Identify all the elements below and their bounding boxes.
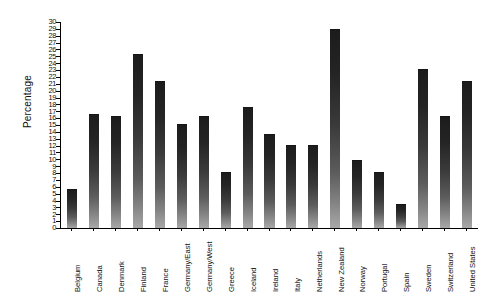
bar xyxy=(286,145,296,228)
y-tick-mark xyxy=(56,111,60,112)
y-tick-mark xyxy=(56,29,60,30)
bar-slot xyxy=(221,22,231,228)
y-tick-mark xyxy=(56,98,60,99)
y-tick-label: 15 xyxy=(40,121,56,128)
bar-slot xyxy=(352,22,362,228)
y-tick-mark xyxy=(56,166,60,167)
bar xyxy=(396,204,406,228)
x-tick-label: Canada xyxy=(96,265,104,292)
bar-chart: Percentage 01234567891011121314151617181… xyxy=(0,0,489,296)
y-tick-label: 6 xyxy=(40,183,56,190)
bar-slot xyxy=(462,22,472,228)
bar xyxy=(67,189,77,228)
y-tick-label: 20 xyxy=(40,87,56,94)
y-tick-label: 12 xyxy=(40,142,56,149)
y-tick-mark xyxy=(56,70,60,71)
x-tick-label: Spain xyxy=(403,273,411,292)
x-tick-label: Belgium xyxy=(74,265,82,292)
bar xyxy=(111,116,121,228)
bar-slot xyxy=(264,22,274,228)
y-tick-label: 7 xyxy=(40,176,56,183)
y-tick-label: 5 xyxy=(40,190,56,197)
bar xyxy=(418,69,428,228)
x-axis-tick-labels: BelgiumCanadaDenmarkFinlandFranceGermany… xyxy=(60,230,478,294)
y-tick-mark xyxy=(56,221,60,222)
x-tick-label: Iceland xyxy=(250,268,258,293)
y-axis-title: Percentage xyxy=(22,42,33,162)
y-tick-label: 29 xyxy=(40,25,56,32)
bar xyxy=(133,54,143,228)
bar xyxy=(440,116,450,228)
y-tick-mark xyxy=(56,152,60,153)
x-tick-label: Germany/East xyxy=(184,243,192,292)
x-tick-label: Switzerland xyxy=(447,253,455,292)
bar-slot xyxy=(308,22,318,228)
bar-slot xyxy=(133,22,143,228)
y-tick-mark xyxy=(56,139,60,140)
bar-slot xyxy=(286,22,296,228)
x-tick-label: Germany/West xyxy=(206,242,214,293)
x-tick-label: Norway xyxy=(359,266,367,292)
bar-slot xyxy=(440,22,450,228)
y-tick-label: 13 xyxy=(40,135,56,142)
y-tick-mark xyxy=(56,194,60,195)
bar xyxy=(308,145,318,228)
bar-slot xyxy=(374,22,384,228)
y-tick-mark xyxy=(56,228,60,229)
plot-area xyxy=(60,22,478,228)
y-tick-label: 14 xyxy=(40,128,56,135)
y-tick-mark xyxy=(56,43,60,44)
y-tick-label: 28 xyxy=(40,32,56,39)
bar-slot xyxy=(418,22,428,228)
y-tick-mark xyxy=(56,125,60,126)
bar-slot xyxy=(243,22,253,228)
y-tick-mark xyxy=(56,201,60,202)
y-tick-mark xyxy=(56,187,60,188)
bar-slot xyxy=(89,22,99,228)
y-tick-mark xyxy=(56,104,60,105)
y-tick-label: 22 xyxy=(40,73,56,80)
bar-slot xyxy=(67,22,77,228)
x-tick-label: Finland xyxy=(140,267,148,292)
bar xyxy=(264,134,274,228)
bar-slot xyxy=(396,22,406,228)
y-tick-mark xyxy=(56,56,60,57)
y-tick-label: 30 xyxy=(40,18,56,25)
bar-slot xyxy=(155,22,165,228)
x-tick-label: New Zealand xyxy=(338,247,346,292)
bar xyxy=(155,81,165,228)
bar xyxy=(221,172,231,228)
x-tick-label: Greece xyxy=(228,267,236,292)
y-tick-label: 21 xyxy=(40,80,56,87)
y-tick-mark xyxy=(56,207,60,208)
x-tick-label: United States xyxy=(469,246,477,292)
bar xyxy=(462,81,472,228)
bar-slot xyxy=(199,22,209,228)
x-tick-label: Portugal xyxy=(381,264,389,292)
bar xyxy=(374,172,384,228)
y-tick-label: 27 xyxy=(40,39,56,46)
y-tick-mark xyxy=(56,77,60,78)
bar xyxy=(177,124,187,228)
y-tick-mark xyxy=(56,132,60,133)
x-tick-label: Sweden xyxy=(425,265,433,292)
bar xyxy=(330,29,340,228)
y-tick-mark xyxy=(56,84,60,85)
bar-series xyxy=(61,22,478,228)
y-tick-mark xyxy=(56,146,60,147)
x-tick-label: Netherlands xyxy=(316,251,324,292)
y-tick-mark xyxy=(56,180,60,181)
bar-slot xyxy=(177,22,187,228)
y-axis-tick-labels: 0123456789101112131415161718192021222324… xyxy=(38,22,56,228)
bar xyxy=(199,116,209,228)
bar xyxy=(89,114,99,228)
y-tick-mark xyxy=(56,159,60,160)
x-tick-label: Italy xyxy=(294,278,302,292)
y-tick-mark xyxy=(56,214,60,215)
y-tick-mark xyxy=(56,36,60,37)
x-tick-label: France xyxy=(162,268,170,292)
y-tick-mark xyxy=(56,63,60,64)
y-tick-mark xyxy=(56,22,60,23)
bar-slot xyxy=(111,22,121,228)
y-tick-mark xyxy=(56,91,60,92)
